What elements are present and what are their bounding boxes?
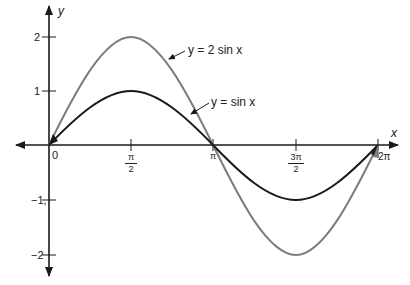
y-tick-label-neg2: −2 <box>31 250 44 261</box>
x-tick-label-0: 0 <box>52 150 58 161</box>
y-tick-label-2: 2 <box>34 32 40 43</box>
x-tick-label-pi-half: π 2 <box>125 153 137 174</box>
origin-arrow-icon <box>49 134 58 145</box>
x-tick-label-3pi-half: 3π 2 <box>288 153 304 174</box>
x-axis-label: x <box>391 127 397 139</box>
annotation-2sinx: y = 2 sin x <box>188 44 242 56</box>
x-tick-label-2pi: 2π <box>378 152 390 162</box>
fraction-denominator: 2 <box>288 164 304 174</box>
fraction-denominator: 2 <box>125 164 137 174</box>
fraction-numerator: 3π <box>288 153 304 164</box>
fraction-numerator: π <box>125 153 137 164</box>
y-tick-label-neg1: −1, <box>31 195 47 206</box>
annotation-sinx: y = sin x <box>211 96 255 108</box>
x-tick-label-pi: π <box>210 152 216 161</box>
annotation-leader-2sinx <box>169 51 185 59</box>
y-tick-label-1: 1 <box>34 86 40 97</box>
y-axis-label: y <box>58 5 64 17</box>
